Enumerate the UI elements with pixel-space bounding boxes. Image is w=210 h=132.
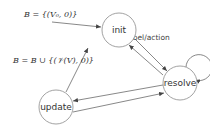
node-init: init (102, 13, 136, 47)
node-update-label: update (40, 102, 72, 112)
node-resolve-label: resolve (164, 78, 197, 88)
state-diagram: B = {(V₀, 0)} label/action B = B ∪ {(𝒱(V… (0, 0, 210, 132)
node-update: update (39, 90, 73, 124)
node-resolve: resolve (163, 66, 197, 100)
edge-resolve-to-init (129, 45, 163, 75)
edge-update-to-init-label: B = B ∪ {(𝒱(V), 0)} (12, 56, 94, 65)
edge-update-to-init (66, 48, 88, 92)
edge-resolve-to-update (73, 85, 163, 101)
initial-edge-label: B = {(V₀, 0)} (23, 10, 77, 19)
edge-update-to-resolve (73, 93, 164, 112)
node-init-label: init (112, 25, 127, 35)
edge-init-to-resolve (135, 39, 167, 71)
initial-edge (52, 22, 101, 27)
